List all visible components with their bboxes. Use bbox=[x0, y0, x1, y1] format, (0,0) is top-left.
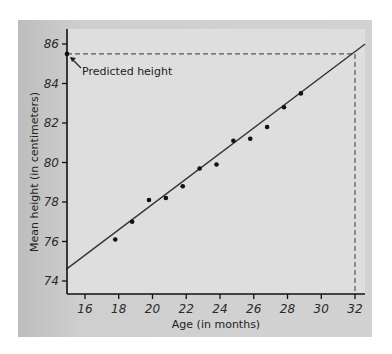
x-axis-ticks: 161820222426283032 bbox=[77, 294, 362, 316]
data-point bbox=[130, 219, 135, 224]
data-point bbox=[248, 137, 253, 142]
data-point bbox=[197, 166, 202, 171]
data-points bbox=[113, 91, 303, 242]
x-tick-label: 30 bbox=[314, 302, 330, 316]
y-tick-label: 86 bbox=[44, 37, 60, 51]
y-tick-label: 82 bbox=[44, 116, 59, 130]
x-tick-label: 24 bbox=[212, 302, 227, 316]
x-tick-label: 28 bbox=[280, 302, 296, 316]
data-point bbox=[265, 125, 270, 130]
x-tick-label: 26 bbox=[246, 302, 262, 316]
data-point bbox=[282, 105, 287, 110]
predicted-point bbox=[65, 52, 70, 57]
data-point bbox=[180, 184, 185, 189]
y-tick-label: 78 bbox=[44, 195, 60, 209]
y-tick-label: 76 bbox=[44, 235, 60, 249]
x-tick-label: 22 bbox=[179, 302, 194, 316]
y-axis-ticks: 74767880828486 bbox=[44, 37, 67, 288]
predicted-height-annotation: Predicted height bbox=[65, 52, 173, 78]
data-point bbox=[214, 162, 219, 167]
y-tick-label: 80 bbox=[44, 156, 60, 170]
y-tick-label: 74 bbox=[44, 274, 59, 288]
data-point bbox=[147, 198, 152, 203]
data-point bbox=[113, 237, 118, 242]
data-point bbox=[231, 138, 236, 143]
x-tick-label: 18 bbox=[111, 302, 127, 316]
y-tick-label: 84 bbox=[44, 77, 59, 91]
data-point bbox=[299, 91, 304, 96]
data-point bbox=[164, 196, 169, 201]
x-tick-label: 20 bbox=[145, 302, 161, 316]
y-axis-label: Mean height (in centimeters) bbox=[28, 92, 41, 252]
prediction-guide-lines bbox=[67, 54, 355, 294]
x-axis-label: Age (in months) bbox=[172, 318, 260, 331]
x-tick-label: 16 bbox=[77, 302, 93, 316]
scatter-chart: 74767880828486 161820222426283032 Age (i… bbox=[0, 0, 392, 354]
x-tick-label: 32 bbox=[347, 302, 362, 316]
annotation-text: Predicted height bbox=[82, 65, 173, 78]
